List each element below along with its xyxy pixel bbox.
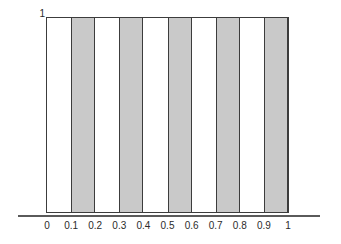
plot-area — [46, 17, 289, 213]
bar — [95, 18, 119, 212]
bar — [192, 18, 216, 212]
bar — [168, 18, 192, 212]
x-axis-tick-labels: 00.10.20.30.40.50.60.70.80.91 — [0, 220, 341, 234]
bar — [240, 18, 264, 212]
bar — [216, 18, 240, 212]
uniform-distribution-chart: 1 00.10.20.30.40.50.60.70.80.91 — [0, 0, 341, 244]
y-axis-max-label: 1 — [33, 8, 45, 19]
bar — [119, 18, 143, 212]
bar — [143, 18, 167, 212]
x-axis-line — [18, 215, 320, 217]
bar — [47, 18, 71, 212]
bar — [71, 18, 95, 212]
x-tick-label: 1 — [273, 220, 303, 232]
bar — [264, 18, 288, 212]
